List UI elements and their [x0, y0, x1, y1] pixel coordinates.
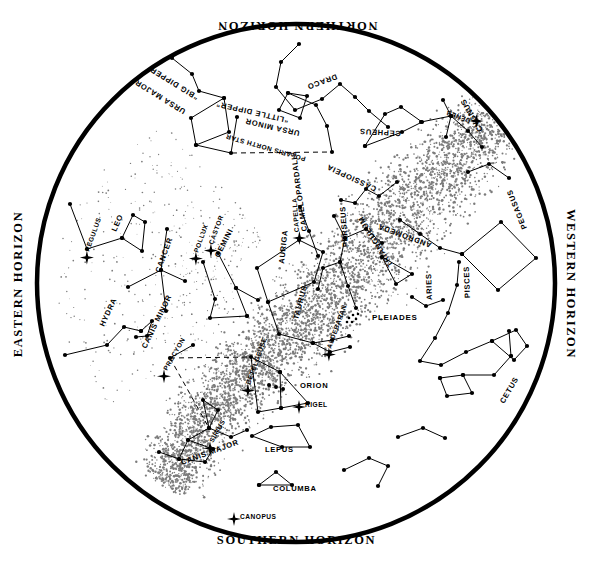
- star-label-canopus: CANOPUS: [240, 513, 277, 520]
- constellation-label-pisces: PISCES: [462, 266, 472, 298]
- star-label-rigel: RIGEL: [305, 401, 328, 408]
- constellation-label-orion: ORION: [300, 381, 328, 390]
- northern-horizon-label: NORTHERN HORIZON: [216, 18, 377, 33]
- eastern-horizon-label: EASTERN HORIZON: [11, 210, 26, 357]
- western-horizon-label: WESTERN HORIZON: [563, 208, 578, 358]
- sky-map: DRACOURSA MAJOR“BIG DIPPER”URSA MINOR“LI…: [0, 0, 593, 567]
- southern-horizon-label: SOUTHERN HORIZON: [217, 533, 376, 548]
- constellation-label-columba: COLUMBA: [273, 484, 317, 493]
- horizon-circle: [37, 24, 555, 542]
- cluster-label-pleiades: PLEIADES: [372, 313, 418, 322]
- star-chart: DRACOURSA MAJOR“BIG DIPPER”URSA MINOR“LI…: [0, 0, 593, 567]
- constellation-label-aries: ARIES: [424, 273, 434, 300]
- constellation-label-lepus: LEPUS: [265, 445, 294, 454]
